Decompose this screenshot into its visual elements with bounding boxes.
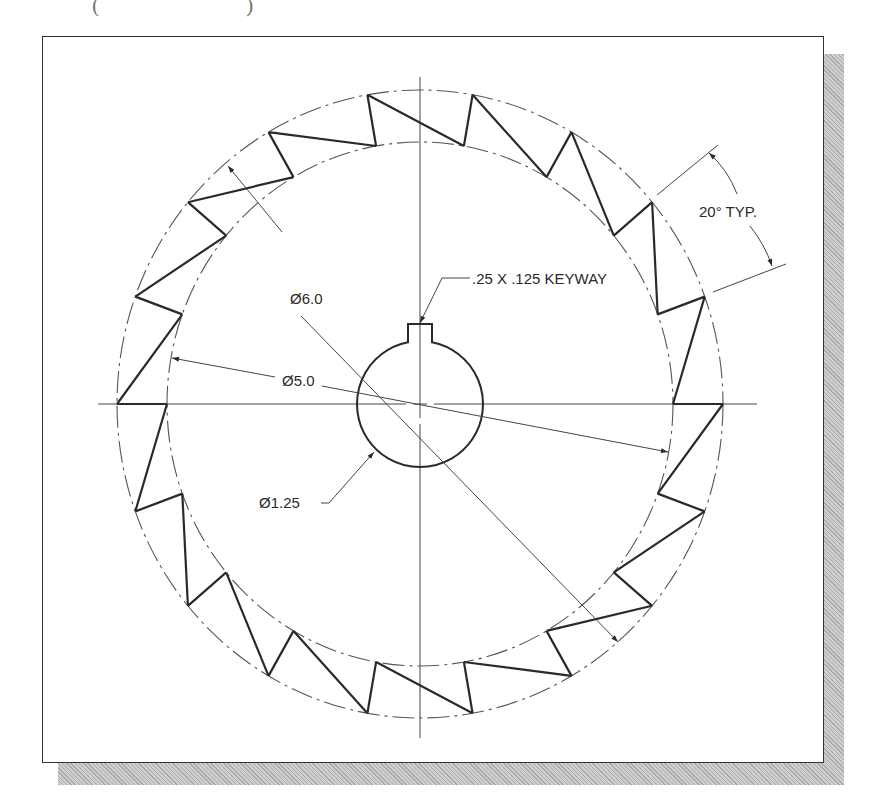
bore-diameter-label: Ø1.25 [259,494,300,511]
extension-line [657,145,718,195]
ratchet-drawing: Ø6.0 Ø5.0 Ø1.25 .25 X .125 KEYWAY 20° TY… [0,0,876,797]
dim-line-segment [322,386,668,452]
dim-line-segment [228,166,282,232]
keyway-label: .25 X .125 KEYWAY [472,270,607,287]
angle-arc-lower [750,226,772,266]
centerlines [98,77,757,738]
leader-line [420,278,470,323]
angle-arc-upper [709,153,737,194]
leader-line [321,452,374,503]
outer-diameter-label: Ø6.0 [290,290,323,307]
bore-diameter-leader [321,452,374,503]
dim-line-segment [172,358,275,377]
extension-line [713,264,786,292]
tooth-angle-label: 20° TYP. [699,203,757,220]
dim-line-segment [301,316,618,642]
root-diameter-label: Ø5.0 [282,372,315,389]
keyway-leader [420,278,470,323]
